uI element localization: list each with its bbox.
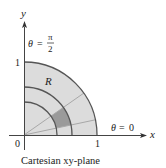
y-tick-1: 1 (15, 57, 20, 68)
y-axis-label: y (20, 7, 26, 19)
theta-right-val: 0 (129, 122, 134, 133)
diagram-labels: y x 0 1 1 R θ = π 2 θ = 0 Cartesian xy-p… (0, 0, 166, 168)
theta-top-den: 2 (48, 44, 53, 54)
theta-top-symbol: θ (28, 38, 33, 49)
theta-right-eq: = (119, 122, 125, 133)
theta-top-eq: = (37, 38, 43, 49)
theta-right-symbol: θ (111, 122, 116, 133)
region-r-label: R (44, 75, 52, 87)
origin-label: 0 (15, 138, 20, 149)
caption: Cartesian xy-plane (21, 155, 100, 166)
x-axis-label: x (149, 128, 155, 140)
x-tick-1: 1 (95, 138, 100, 149)
theta-top-num: π (48, 32, 53, 42)
